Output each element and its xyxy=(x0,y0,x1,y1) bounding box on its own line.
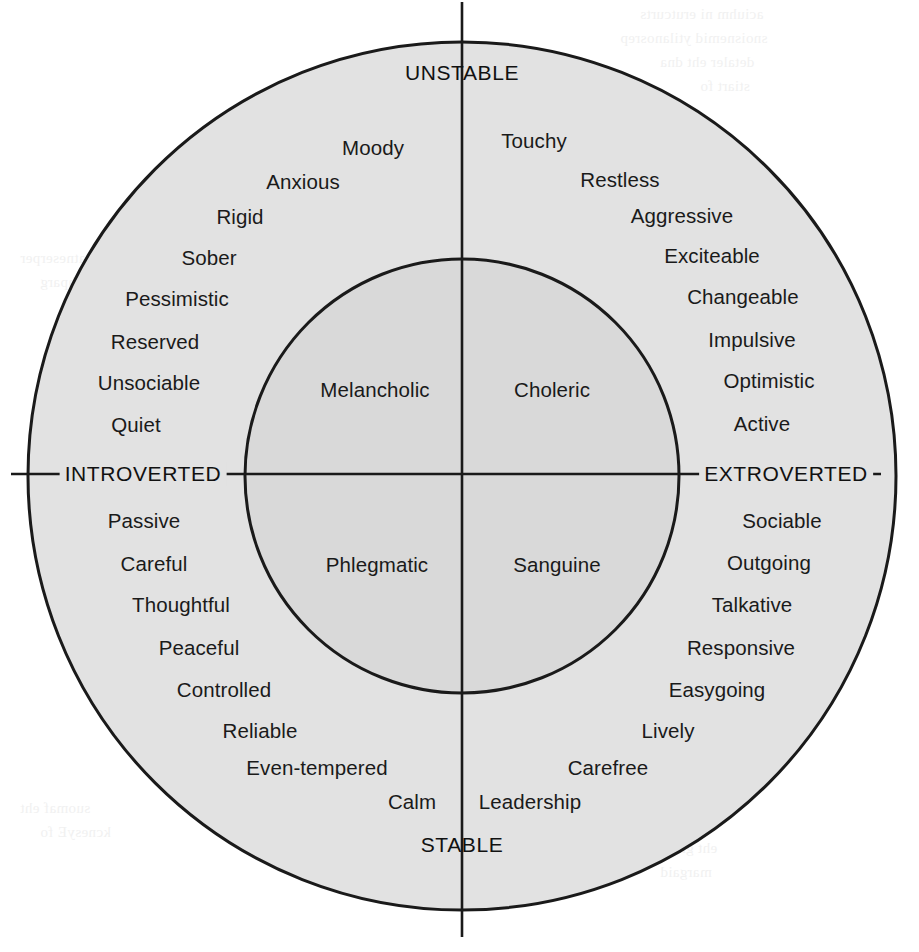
trait-word: Unsociable xyxy=(98,371,200,395)
trait-word: Exciteable xyxy=(664,244,760,268)
axis-label-introverted: INTROVERTED xyxy=(60,462,227,486)
temperament-choleric: Choleric xyxy=(514,378,590,402)
trait-word: Touchy xyxy=(501,129,567,153)
trait-word: Even-tempered xyxy=(246,756,387,780)
trait-word: Controlled xyxy=(177,678,271,702)
trait-word: Pessimistic xyxy=(125,287,229,311)
trait-word: Lively xyxy=(641,719,694,743)
trait-word: Active xyxy=(734,412,790,436)
diagram-labels: UNSTABLE STABLE INTROVERTED EXTROVERTED … xyxy=(0,0,919,952)
temperament-sanguine: Sanguine xyxy=(513,553,600,577)
trait-word: Leadership xyxy=(479,790,581,814)
trait-word: Aggressive xyxy=(631,204,733,228)
temperament-melancholic: Melancholic xyxy=(320,378,429,402)
trait-word: Careful xyxy=(121,552,188,576)
trait-word: Passive xyxy=(108,509,180,533)
trait-word: Moody xyxy=(342,136,404,160)
axis-label-stable: STABLE xyxy=(421,833,504,857)
trait-word: Reliable xyxy=(223,719,298,743)
trait-word: Outgoing xyxy=(727,551,811,575)
trait-word: Sociable xyxy=(742,509,821,533)
trait-word: Optimistic xyxy=(724,369,815,393)
trait-word: Quiet xyxy=(111,413,161,437)
trait-word: Rigid xyxy=(216,205,263,229)
trait-word: Thoughtful xyxy=(132,593,230,617)
trait-word: Reserved xyxy=(111,330,200,354)
axis-label-extroverted: EXTROVERTED xyxy=(699,462,873,486)
trait-word: Talkative xyxy=(712,593,793,617)
temperament-phlegmatic: Phlegmatic xyxy=(326,553,428,577)
trait-word: Anxious xyxy=(266,170,340,194)
trait-word: Easygoing xyxy=(669,678,766,702)
trait-word: Calm xyxy=(388,790,436,814)
eysenck-personality-diagram: aciuhm ni erutcurts snoisnemid ytilanosr… xyxy=(0,0,919,952)
trait-word: Responsive xyxy=(687,636,795,660)
trait-word: Carefree xyxy=(568,756,649,780)
trait-word: Changeable xyxy=(687,285,799,309)
trait-word: Impulsive xyxy=(708,328,796,352)
trait-word: Restless xyxy=(580,168,659,192)
trait-word: Peaceful xyxy=(159,636,240,660)
axis-label-unstable: UNSTABLE xyxy=(405,61,519,85)
trait-word: Sober xyxy=(181,246,236,270)
